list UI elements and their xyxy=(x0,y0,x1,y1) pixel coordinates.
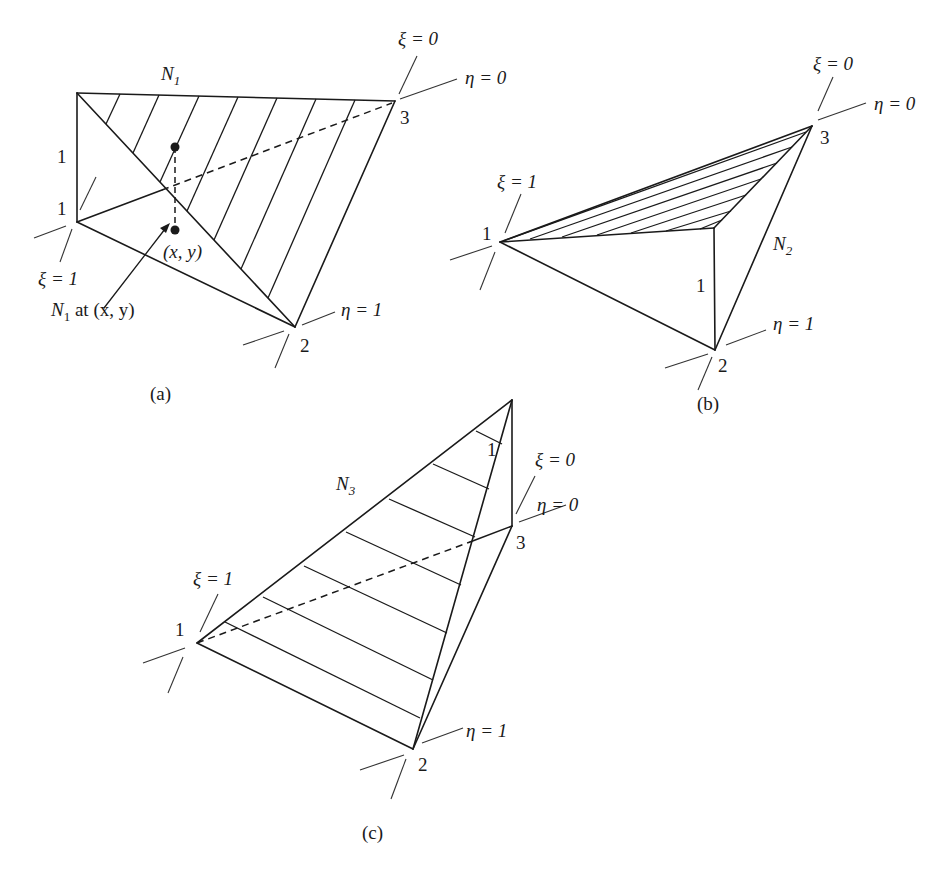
node-3-label: 3 xyxy=(820,127,830,148)
hatch-lines xyxy=(106,94,355,298)
point-label: (x, y) xyxy=(163,241,202,263)
arrow-label: N1 at (x, y) xyxy=(50,299,135,324)
hatch-lines xyxy=(503,132,806,241)
eta-zero-label: η = 0 xyxy=(537,494,579,515)
shape-function-label: N2 xyxy=(772,233,793,258)
top-edge xyxy=(77,93,395,101)
node-2-label: 2 xyxy=(300,335,310,356)
node-2-label: 2 xyxy=(418,754,428,775)
pointer-arrow xyxy=(104,229,165,308)
eta-zero-label: η = 0 xyxy=(465,67,507,88)
xi-zero-label: ξ = 0 xyxy=(535,449,575,470)
node-3-label: 3 xyxy=(516,532,526,553)
xi-one-label: ξ = 1 xyxy=(497,171,537,192)
node-2-label: 2 xyxy=(718,355,728,376)
shape-function-diagrams: N1 1 1 2 3 ξ = 1 ξ = 0 η = 1 η = 0 (x, y… xyxy=(0,0,950,872)
eta-zero-label: η = 0 xyxy=(874,93,916,114)
hatch-lines xyxy=(225,431,502,718)
edge-1-2 xyxy=(500,242,715,350)
eta-one-label: η = 1 xyxy=(466,720,507,741)
edge-3-2 xyxy=(295,101,395,327)
shape-function-label: N3 xyxy=(335,473,356,498)
edge-1-2 xyxy=(197,643,413,749)
base-edge-1-3-hidden xyxy=(162,103,392,190)
surface-edge-apex-3 xyxy=(714,126,812,228)
base-point xyxy=(171,226,180,235)
edge-3-2 xyxy=(413,526,512,749)
surface-edge-apex-2 xyxy=(413,400,512,749)
figure-b: N2 1 1 2 3 ξ = 1 ξ = 0 η = 1 η = 0 (b) xyxy=(450,53,916,415)
node-ticks xyxy=(143,476,566,799)
xi-zero-label: ξ = 0 xyxy=(398,28,438,49)
eta-one-label: η = 1 xyxy=(773,313,814,334)
node-1-label: 1 xyxy=(175,619,185,640)
node-1-label: 1 xyxy=(57,198,67,219)
figure-a: N1 1 1 2 3 ξ = 1 ξ = 0 η = 1 η = 0 (x, y… xyxy=(34,28,507,405)
node-3-label: 3 xyxy=(400,107,410,128)
surface-point xyxy=(171,143,180,152)
node-1-label: 1 xyxy=(482,223,492,244)
caption-c: (c) xyxy=(362,822,383,844)
height-edge xyxy=(714,228,715,350)
height-label: 1 xyxy=(57,146,67,167)
xi-one-label: ξ = 1 xyxy=(193,568,233,589)
shape-function-label: N1 xyxy=(160,63,180,88)
surface-edge-1-apex xyxy=(197,400,512,643)
figure-c: N3 1 1 2 3 ξ = 1 ξ = 0 η = 1 η = 0 (c) xyxy=(143,400,579,844)
xi-zero-label: ξ = 0 xyxy=(813,53,853,74)
height-label: 1 xyxy=(487,439,497,460)
eta-one-label: η = 1 xyxy=(341,299,382,320)
caption-b: (b) xyxy=(697,393,719,415)
base-edge-1-3-solid xyxy=(77,190,162,222)
xi-one-label: ξ = 1 xyxy=(38,268,78,289)
caption-a: (a) xyxy=(150,383,171,405)
height-label: 1 xyxy=(696,275,706,296)
node-ticks xyxy=(450,77,866,390)
arrowhead-icon xyxy=(160,223,170,233)
